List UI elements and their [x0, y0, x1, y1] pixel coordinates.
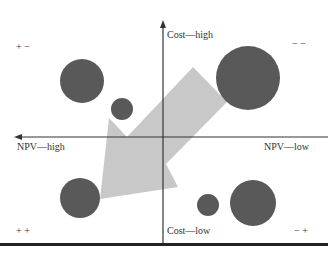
bubble	[216, 46, 280, 110]
bottom-border	[0, 243, 328, 246]
y-axis-top-label: Cost—high	[167, 29, 213, 40]
x-axis-arrowhead	[14, 134, 22, 140]
bubble	[60, 59, 104, 103]
quadrant-bottom-right-label: − +	[294, 225, 308, 236]
quadrant-top-left-label: + −	[16, 41, 30, 52]
bubble	[197, 194, 219, 216]
quadrant-bottom-left-label: + +	[16, 225, 30, 236]
y-axis-arrowhead	[160, 20, 166, 28]
bubble	[111, 98, 133, 120]
quadrant-top-right-label: − −	[292, 38, 306, 49]
y-axis-bottom-label: Cost—low	[167, 225, 210, 236]
bubble-matrix-diagram	[0, 0, 328, 254]
bubble	[230, 180, 276, 226]
x-axis-right-label: NPV—low	[264, 141, 309, 152]
bubble	[60, 178, 100, 218]
x-axis-left-label: NPV—high	[17, 141, 65, 152]
